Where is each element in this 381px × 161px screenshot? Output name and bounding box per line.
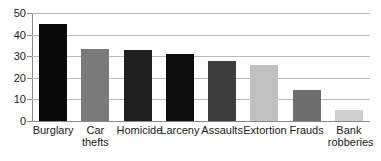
bar[interactable] [335, 110, 363, 121]
x-axis-label: Larceny [159, 124, 201, 136]
bar-slot [74, 13, 116, 121]
x-axis-label: Bank robberies [328, 124, 370, 148]
bar[interactable] [293, 90, 321, 121]
x-axis-label: Assaults [201, 124, 243, 136]
x-axis-label: Burglary [32, 124, 74, 136]
bar-slot [32, 13, 74, 121]
x-axis-labels: BurglaryCar theftsHomicideLarcenyAssault… [32, 124, 370, 160]
bar[interactable] [166, 54, 194, 121]
x-axis-label: Car thefts [74, 124, 116, 148]
gridline-0 [32, 121, 370, 122]
bar-slot [201, 13, 243, 121]
bar[interactable] [250, 65, 278, 121]
bar-chart: 01020304050 BurglaryCar theftsHomicideLa… [0, 0, 381, 161]
y-tick-mark-0 [27, 121, 32, 122]
bar-slot [328, 13, 370, 121]
y-tick-label-40: 40 [0, 30, 26, 41]
y-tick-label-10: 10 [0, 94, 26, 105]
x-axis-label: Frauds [286, 124, 328, 136]
bar[interactable] [208, 61, 236, 121]
bar-slot [286, 13, 328, 121]
bar-slot [117, 13, 159, 121]
x-axis-label: Homicide [117, 124, 159, 136]
y-tick-label-20: 20 [0, 73, 26, 84]
y-tick-label-50: 50 [0, 8, 26, 19]
y-tick-label-30: 30 [0, 51, 26, 62]
bar-slot [159, 13, 201, 121]
bars-layer [32, 13, 370, 121]
bar[interactable] [39, 24, 67, 121]
x-axis-label: Extortion [243, 124, 285, 136]
bar-slot [243, 13, 285, 121]
bar[interactable] [81, 49, 109, 121]
bar[interactable] [124, 50, 152, 121]
y-tick-label-0: 0 [0, 116, 26, 127]
